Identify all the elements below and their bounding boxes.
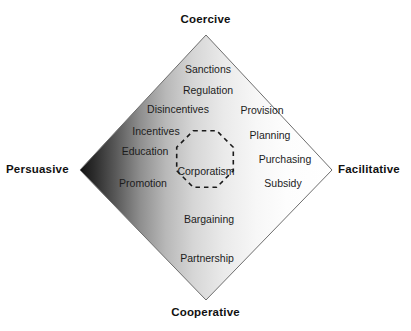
instrument-label: Planning <box>250 130 291 141</box>
instrument-label: Purchasing <box>259 154 312 165</box>
instrument-label: Education <box>122 146 169 157</box>
instrument-label: Regulation <box>183 85 233 96</box>
instrument-label: Subsidy <box>264 178 301 189</box>
instrument-label: Partnership <box>180 253 234 264</box>
instrument-label: Provision <box>240 105 283 116</box>
axis-label-coercive: Coercive <box>180 14 230 26</box>
instrument-label: Sanctions <box>185 64 231 75</box>
instrument-label: Promotion <box>119 178 167 189</box>
axis-label-facilitative: Facilitative <box>338 164 400 176</box>
policy-instruments-diagram: Coercive Persuasive Facilitative Coopera… <box>0 0 411 331</box>
instrument-label: Incentives <box>132 126 179 137</box>
axis-label-cooperative: Cooperative <box>171 307 240 319</box>
instrument-label: Disincentives <box>147 104 209 115</box>
instrument-label: Bargaining <box>184 214 234 225</box>
core-label-corporatism: Corporatism <box>177 166 234 177</box>
axis-label-persuasive: Persuasive <box>6 164 69 176</box>
